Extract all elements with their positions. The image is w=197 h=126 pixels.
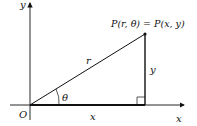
origin-label: O xyxy=(19,109,27,120)
hypotenuse-label: r xyxy=(86,55,92,66)
hypotenuse-r xyxy=(30,34,145,105)
angle-label: θ xyxy=(62,92,68,103)
horizontal-leg-label: x xyxy=(90,111,96,122)
polar-coordinates-diagram: y x O P(r, θ) = P(x, y) r θ y x xyxy=(0,0,197,126)
right-angle-marker xyxy=(137,97,145,105)
vertical-leg-label: y xyxy=(149,64,156,75)
point-p xyxy=(143,32,146,35)
angle-arc xyxy=(56,89,59,105)
y-axis-label: y xyxy=(19,0,26,10)
x-axis-label: x xyxy=(176,113,182,124)
point-label: P(r, θ) = P(x, y) xyxy=(110,18,185,29)
